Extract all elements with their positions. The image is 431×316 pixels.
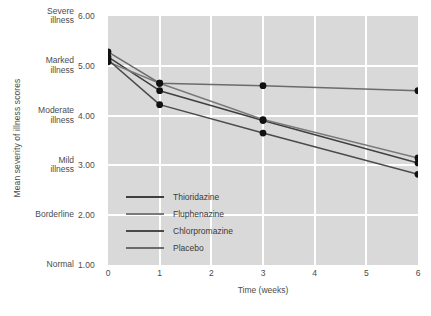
y-tick-description: Normal xyxy=(12,260,78,270)
y-tick-value: 2.00 xyxy=(78,210,104,220)
legend-item-label: Fluphenazine xyxy=(173,209,224,219)
y-tick-5-00: Marked illness5.00 xyxy=(0,53,104,79)
chart-legend: ThioridazineFluphenazineChlorpromazinePl… xyxy=(126,188,276,256)
y-tick-3-00: Mild illness3.00 xyxy=(0,152,104,178)
y-tick-description: Borderline xyxy=(12,210,78,220)
legend-item-fluphenazine: Fluphenazine xyxy=(126,205,276,222)
data-point-fluphenazine-week-6 xyxy=(415,155,418,162)
data-point-placebo-week-1 xyxy=(156,80,163,87)
y-tick-4-00: Moderate illness4.00 xyxy=(0,103,104,129)
data-point-chlorpromazine-week-1 xyxy=(156,101,163,108)
y-tick-1-00: Normal1.00 xyxy=(0,252,104,278)
y-tick-6-00: Severe illness6.00 xyxy=(0,3,104,29)
x-tick-5: 5 xyxy=(354,268,378,278)
legend-line-swatch xyxy=(126,196,164,198)
legend-item-placebo: Placebo xyxy=(126,239,276,256)
x-tick-2: 2 xyxy=(199,268,223,278)
legend-item-label: Placebo xyxy=(173,243,204,253)
data-point-placebo-week-6 xyxy=(415,87,418,94)
legend-line-swatch xyxy=(126,247,164,249)
legend-line-swatch xyxy=(126,230,164,232)
chart-figure: Mean severity of illness scores Severe i… xyxy=(0,0,431,316)
legend-item-chlorpromazine: Chlorpromazine xyxy=(126,222,276,239)
series-line-fluphenazine xyxy=(108,62,418,158)
legend-item-label: Thioridazine xyxy=(173,192,219,202)
y-tick-value: 3.00 xyxy=(78,160,104,170)
data-point-fluphenazine-week-3 xyxy=(260,116,267,123)
x-axis-title: Time (weeks) xyxy=(108,285,418,295)
x-tick-1: 1 xyxy=(148,268,172,278)
y-tick-value: 6.00 xyxy=(78,11,104,21)
legend-item-label: Chlorpromazine xyxy=(173,226,233,236)
y-tick-description: Moderate illness xyxy=(12,106,78,125)
plot-area: ThioridazineFluphenazineChlorpromazinePl… xyxy=(108,16,418,265)
y-tick-description: Mild illness xyxy=(12,156,78,175)
y-tick-description: Severe illness xyxy=(12,7,78,26)
data-point-chlorpromazine-week-6 xyxy=(415,171,418,178)
y-tick-2-00: Borderline2.00 xyxy=(0,202,104,228)
x-tick-6: 6 xyxy=(406,268,430,278)
data-point-placebo-week-3 xyxy=(260,82,267,89)
legend-line-swatch xyxy=(126,213,164,215)
legend-item-thioridazine: Thioridazine xyxy=(126,188,276,205)
data-point-thioridazine-week-1 xyxy=(156,87,163,94)
y-tick-value: 4.00 xyxy=(78,111,104,121)
x-tick-3: 3 xyxy=(251,268,275,278)
y-tick-description: Marked illness xyxy=(12,56,78,75)
data-point-chlorpromazine-week-3 xyxy=(260,130,267,137)
x-tick-4: 4 xyxy=(303,268,327,278)
y-tick-value: 5.00 xyxy=(78,61,104,71)
x-tick-0: 0 xyxy=(96,268,120,278)
